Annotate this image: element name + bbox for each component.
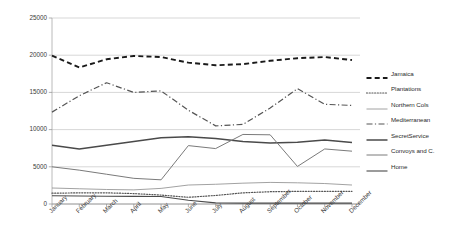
legend-item[interactable]: Plantations	[366, 82, 458, 98]
legend-swatch-icon	[366, 69, 388, 79]
legend-swatch-icon	[366, 162, 388, 172]
legend-swatch-icon	[366, 84, 388, 94]
legend-item[interactable]: SecretService	[366, 128, 458, 144]
legend-item[interactable]: Northern Cols	[366, 97, 458, 113]
y-axis-tick-label: 20000	[11, 52, 47, 58]
y-tick-marks	[49, 18, 52, 204]
legend-item[interactable]: Home	[366, 159, 458, 175]
gridlines	[52, 18, 360, 204]
y-axis-tick-label: 15000	[11, 89, 47, 95]
legend-item-label: Plantations	[391, 86, 421, 92]
legend-item[interactable]: Convoys and C.	[366, 144, 458, 160]
legend-item[interactable]: Mediterranean	[366, 113, 458, 129]
legend-item-label: Convoys and C.	[391, 148, 434, 154]
legend-item-label: Home	[391, 164, 407, 170]
legend-swatch-icon	[366, 115, 388, 125]
y-axis-tick-label: 10000	[11, 126, 47, 132]
series-line-mediterranean	[52, 83, 352, 126]
legend-item[interactable]: Jamaica	[366, 66, 458, 82]
legend-swatch-icon	[366, 131, 388, 141]
legend-item-label: Jamaica	[391, 71, 414, 77]
line-chart: 0500010000150002000025000 JanuaryFebruar…	[0, 0, 460, 247]
chart-legend: JamaicaPlantationsNorthern ColsMediterra…	[366, 66, 458, 175]
legend-item-label: Northern Cols	[391, 102, 429, 108]
y-axis-tick-label: 5000	[11, 164, 47, 170]
legend-item-label: SecretService	[391, 133, 429, 139]
y-axis-tick-label: 0	[11, 201, 47, 207]
axis-lines	[52, 18, 360, 204]
y-axis-tick-label: 25000	[11, 15, 47, 21]
series-line-jamaica	[52, 56, 352, 68]
legend-item-label: Mediterranean	[391, 117, 430, 123]
series-line-northern-cols	[52, 182, 352, 189]
legend-swatch-icon	[366, 100, 388, 110]
legend-swatch-icon	[366, 146, 388, 156]
